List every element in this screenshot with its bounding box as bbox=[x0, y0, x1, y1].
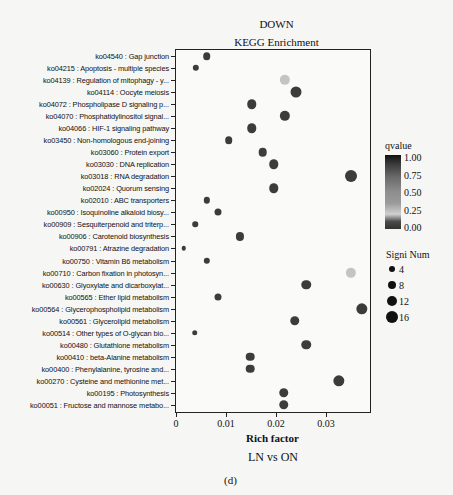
x-tick bbox=[326, 413, 327, 417]
y-tick-label: ko04070 : Phosphatidylinositol signal... bbox=[46, 112, 169, 121]
y-tick-label: ko00710 : Carbon fixation in photosyn... bbox=[43, 268, 169, 277]
data-point bbox=[290, 316, 300, 326]
y-tick-label: ko03018 : RNA degradation bbox=[81, 172, 169, 181]
data-point bbox=[247, 99, 257, 109]
color-bar bbox=[385, 155, 401, 229]
data-point bbox=[290, 87, 301, 98]
comparison-label: LN vs ON bbox=[248, 450, 298, 465]
y-tick-label: ko00630 : Glyoxylate and dicarboxylat... bbox=[42, 280, 169, 289]
y-tick-label: ko02010 : ABC transporters bbox=[81, 196, 169, 205]
chart-subtitle: KEGG Enrichment bbox=[0, 36, 453, 48]
data-point bbox=[225, 136, 233, 144]
data-point bbox=[247, 123, 257, 133]
size-legend-dot bbox=[388, 281, 396, 289]
color-legend-label: 0.00 bbox=[404, 222, 422, 233]
data-point bbox=[301, 280, 311, 290]
y-tick-label: ko00400 : Phenylalanine, tyrosine and... bbox=[42, 364, 169, 373]
size-legend-label: 4 bbox=[399, 264, 404, 275]
y-tick-label: ko04072 : Phospholipase D signaling p... bbox=[39, 100, 169, 109]
size-legend-dot bbox=[389, 266, 395, 272]
size-legend-label: 8 bbox=[399, 280, 404, 291]
data-point bbox=[246, 364, 255, 373]
y-tick-label: ko03030 : DNA replication bbox=[86, 160, 169, 169]
data-point bbox=[192, 222, 198, 228]
y-tick-label: ko00051 : Fructose and mannose metabo... bbox=[30, 400, 169, 409]
y-tick-label: ko02024 : Quorum sensing bbox=[83, 184, 169, 193]
data-point bbox=[269, 184, 279, 194]
y-tick-label: ko00480 : Glutathione metabolism bbox=[60, 340, 169, 349]
y-tick-label: ko00909 : Sesquiterpenoid and triterp... bbox=[44, 220, 169, 229]
data-point bbox=[301, 340, 311, 350]
data-point bbox=[269, 160, 279, 170]
y-tick-label: ko04066 : HIF-1 signaling pathway bbox=[58, 124, 169, 133]
x-tick-label: 0.01 bbox=[217, 418, 235, 429]
y-tick-label: ko04215 : Apoptosis - multiple species bbox=[47, 64, 169, 73]
data-point bbox=[203, 52, 211, 60]
y-tick-label: ko04540 : Gap junction bbox=[95, 52, 169, 61]
figure-caption: (d) bbox=[224, 474, 237, 486]
y-tick-label: ko00906 : Carotenoid biosynthesis bbox=[59, 232, 169, 241]
y-tick-label: ko00561 : Glycerolipid metabolism bbox=[59, 316, 169, 325]
data-point bbox=[279, 400, 289, 410]
y-tick-label: ko03450 : Non-homologous end-joining bbox=[44, 136, 169, 145]
size-legend-dot bbox=[387, 296, 397, 306]
plot-area bbox=[175, 49, 371, 413]
y-tick-label: ko00564 : Glycerophospholipid metabolism bbox=[32, 304, 169, 313]
y-tick-label: ko00514 : Other types of O-glycan bio... bbox=[42, 328, 169, 337]
data-point bbox=[192, 330, 198, 336]
y-tick-label: ko00270 : Cysteine and methionine met... bbox=[37, 376, 169, 385]
size-legend-label: 16 bbox=[399, 312, 409, 323]
color-legend-label: 0.25 bbox=[404, 204, 422, 215]
data-point bbox=[345, 170, 357, 182]
size-legend-label: 12 bbox=[399, 296, 409, 307]
y-tick-label: ko00195 : Photosynthesis bbox=[87, 388, 169, 397]
data-point bbox=[258, 148, 267, 157]
y-tick-label: ko03060 : Protein export bbox=[91, 148, 169, 157]
x-tick bbox=[276, 413, 277, 417]
y-tick-label: ko04139 : Regulation of mitophagy - y... bbox=[43, 76, 169, 85]
color-legend-label: 0.50 bbox=[404, 187, 422, 198]
x-tick bbox=[226, 413, 227, 417]
x-axis-label: Rich factor bbox=[246, 432, 299, 444]
size-legend-title: Signi Num bbox=[386, 249, 430, 260]
size-legend-dot bbox=[386, 311, 398, 323]
color-legend-title: qvalue bbox=[385, 140, 412, 151]
data-point bbox=[181, 246, 186, 251]
y-tick-label: ko04114 : Oocyte meiosis bbox=[87, 88, 169, 97]
y-tick-label: ko00750 : Vitamin B6 metabolism bbox=[62, 256, 169, 265]
x-tick bbox=[176, 413, 177, 417]
chart-title: DOWN bbox=[0, 18, 453, 30]
data-point bbox=[214, 293, 221, 300]
x-tick-label: 0.02 bbox=[267, 418, 285, 429]
data-point bbox=[279, 388, 289, 398]
x-tick-label: 0 bbox=[174, 418, 179, 429]
x-tick-label: 0.03 bbox=[317, 418, 335, 429]
y-tick-label: ko00410 : beta-Alanine metabolism bbox=[56, 352, 169, 361]
data-point bbox=[246, 352, 255, 361]
y-tick-label: ko00950 : Isoquinoline alkaloid biosy... bbox=[47, 208, 169, 217]
y-tick-label: ko00565 : Ether lipid metabolism bbox=[65, 292, 169, 301]
color-legend-label: 1.00 bbox=[404, 152, 422, 163]
data-point bbox=[214, 209, 221, 216]
color-legend-label: 0.75 bbox=[404, 169, 422, 180]
y-tick-label: ko00791 : Atrazine degradation bbox=[70, 244, 169, 253]
